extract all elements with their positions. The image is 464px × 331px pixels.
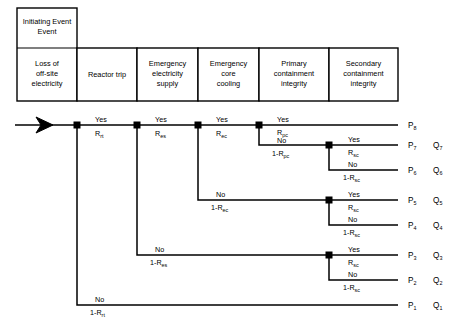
event-tree-canvas: Initiating Event Event Loss of off-site … (0, 0, 464, 331)
outcome-p4: P4 (408, 221, 416, 231)
label-rt-yes-top: Yes (95, 115, 107, 124)
branch-sc-top-no (329, 145, 398, 170)
label-rt-no-top: No (95, 295, 104, 304)
outcome-q6: Q6 (433, 166, 442, 176)
header-initiating-col-line-1: Loss of (35, 59, 60, 68)
label-rt-yes-bottom: Rrt (95, 129, 104, 139)
label-sc-mid-no-bottom: 1-Rsc (343, 228, 360, 238)
tree-branches (15, 125, 398, 305)
label-sc-low-no-bottom: 1-Rsc (343, 283, 360, 293)
label-es-yes-bottom: Res (155, 129, 166, 139)
outcome-p7: P7 (408, 141, 416, 151)
event-tree-diagram: Initiating Event Event Loss of off-site … (0, 0, 464, 331)
label-pc-yes-top: Yes (277, 115, 289, 124)
header-pci-line-1: Primary (281, 59, 307, 68)
header-ecc-line-2: core (221, 69, 235, 78)
outcome-p6: P6 (408, 166, 416, 176)
label-ec-yes-top: Yes (216, 115, 228, 124)
label-es-no-bottom: 1-Res (150, 258, 168, 268)
outcome-q7: Q7 (433, 141, 442, 151)
label-sc-top-yes-bottom: Rsc (348, 148, 359, 158)
header-ees-line-3: supply (157, 79, 179, 88)
label-sc-mid-no-top: No (348, 215, 357, 224)
header-table (17, 8, 398, 101)
header-initiating-col-line-3: electricity (32, 79, 63, 88)
label-sc-low-no-top: No (348, 270, 357, 279)
branch-sc-mid-no (329, 200, 398, 225)
label-sc-mid-yes-bottom: Rsc (348, 203, 359, 213)
header-sci-line-2: containment (343, 69, 383, 78)
outcome-p8: P8 (408, 121, 416, 131)
outcome-p5: P5 (408, 196, 416, 206)
outcome-p3: P3 (408, 251, 416, 261)
header-pci-line-2: containment (274, 69, 314, 78)
label-es-yes-top: Yes (155, 115, 167, 124)
node-pc (256, 122, 263, 129)
header-sci-line-3: integrity (351, 79, 377, 88)
header-ecc-line-1: Emergency (210, 59, 248, 68)
outcome-q3: Q3 (433, 251, 442, 261)
label-sc-low-yes-bottom: Rsc (348, 258, 359, 268)
outcome-q2: Q2 (433, 276, 442, 286)
label-sc-top-no-bottom: 1-Rsc (343, 173, 360, 183)
header-initiating-event-line-1: Initiating Event (23, 17, 71, 26)
label-es-no-top: No (155, 245, 164, 254)
header-pci-line-3: integrity (281, 79, 307, 88)
outcome-q5: Q5 (433, 196, 442, 206)
label-sc-mid-yes-top: Yes (348, 190, 360, 199)
node-es (134, 122, 141, 129)
header-ecc-line-3: cooling (217, 79, 240, 88)
label-pc-no-bottom: 1-Rpc (272, 149, 290, 159)
node-sc-top (326, 142, 333, 149)
label-ec-yes-bottom: Rec (216, 129, 227, 139)
branch-sc-low-no (329, 255, 398, 280)
node-sc-mid (326, 197, 333, 204)
header-sci-line-1: Secondary (346, 59, 382, 68)
header-reactor-trip-line-1: Reactor trip (88, 70, 126, 79)
label-ec-no-top: No (216, 190, 225, 199)
label-pc-no-top: No (277, 136, 286, 145)
header-initiating-col-line-2: off-site (36, 69, 58, 78)
branch-pc-no (259, 125, 329, 145)
outcome-p2: P2 (408, 276, 416, 286)
header-ees-line-2: electricity (152, 69, 183, 78)
label-sc-top-yes-top: Yes (348, 135, 360, 144)
label-sc-low-yes-top: Yes (348, 245, 360, 254)
node-ec (195, 122, 202, 129)
label-rt-no-bottom: 1-Rrt (90, 308, 105, 318)
label-ec-no-bottom: 1-Rec (211, 203, 229, 213)
outcome-q1: Q1 (433, 301, 442, 311)
label-sc-top-no-top: No (348, 160, 357, 169)
node-rt (74, 122, 81, 129)
node-sc-low (326, 252, 333, 259)
header-ees-line-1: Emergency (149, 59, 187, 68)
tree-nodes (74, 122, 333, 259)
outcome-labels: P8 P7 Q7 P6 Q6 P5 Q5 P4 Q4 P3 Q3 P2 Q2 P… (408, 121, 442, 311)
header-initiating-event-line-2: Event (38, 27, 57, 36)
outcome-q4: Q4 (433, 221, 442, 231)
outcome-p1: P1 (408, 301, 416, 311)
